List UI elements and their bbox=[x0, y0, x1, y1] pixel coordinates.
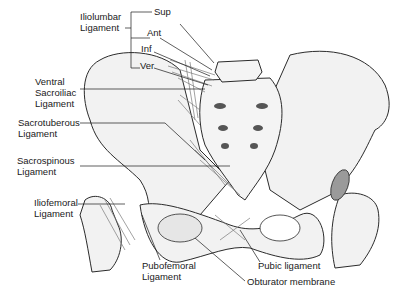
label-iliofemoral-ligament: Iliofemoral Ligament bbox=[34, 197, 78, 219]
label-text: Sacroiliac bbox=[35, 87, 76, 98]
label-text: Sacrospinous bbox=[17, 155, 75, 166]
right-obturator-foramen bbox=[260, 215, 300, 241]
label-iliolumbar-ver: Ver bbox=[140, 60, 154, 71]
label-text: Ligament bbox=[18, 128, 80, 139]
left-obturator-foramen bbox=[158, 214, 202, 242]
label-sacrospinous-ligament: Sacrospinous Ligament bbox=[17, 155, 75, 177]
label-text: Ligament bbox=[142, 271, 196, 282]
label-text: Ventral bbox=[35, 76, 76, 87]
lumbar-vertebra bbox=[215, 60, 262, 82]
label-text: Ligament bbox=[17, 166, 75, 177]
right-femur bbox=[332, 193, 379, 268]
label-iliolumbar-inf: Inf bbox=[141, 43, 152, 54]
left-femur bbox=[80, 196, 121, 272]
label-ventral-sacroiliac-ligament: Ventral Sacroiliac Ligament bbox=[35, 76, 76, 109]
label-text: Iliofemoral bbox=[34, 197, 78, 208]
label-sacrotuberous-ligament: Sacrotuberous Ligament bbox=[18, 117, 80, 139]
label-text: Ligament bbox=[80, 22, 121, 33]
label-text: Ligament bbox=[35, 98, 76, 109]
label-text: Pubofemoral bbox=[142, 260, 196, 271]
label-iliolumbar-ant: Ant bbox=[147, 27, 161, 38]
label-iliolumbar-ligament: Iliolumbar Ligament bbox=[80, 11, 121, 33]
pelvis-illustration bbox=[0, 0, 410, 293]
label-text: Iliolumbar bbox=[80, 11, 121, 22]
label-pubic-ligament: Pubic ligament bbox=[258, 260, 320, 271]
label-pubofemoral-ligament: Pubofemoral Ligament bbox=[142, 260, 196, 282]
label-obturator-membrane: Obturator membrane bbox=[247, 276, 335, 287]
label-text: Sacrotuberous bbox=[18, 117, 80, 128]
label-text: Ligament bbox=[34, 208, 78, 219]
label-iliolumbar-sup: Sup bbox=[154, 6, 171, 17]
